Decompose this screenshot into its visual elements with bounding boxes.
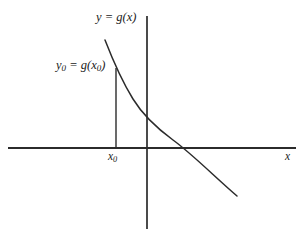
y0-value-label: y0 = g(x0) xyxy=(56,59,105,73)
x-axis-label: x xyxy=(285,151,290,163)
y0-mid: = g(x xyxy=(66,58,97,72)
plot-canvas xyxy=(0,0,308,247)
function-graph-figure: y = g(x) y0 = g(x0) x0 x xyxy=(0,0,308,247)
function-curve xyxy=(105,40,237,196)
curve-label: y = g(x) xyxy=(96,11,136,24)
x0-subscript: 0 xyxy=(113,155,117,164)
y0-end: ) xyxy=(101,58,105,72)
x0-tick-label: x0 xyxy=(108,151,117,164)
